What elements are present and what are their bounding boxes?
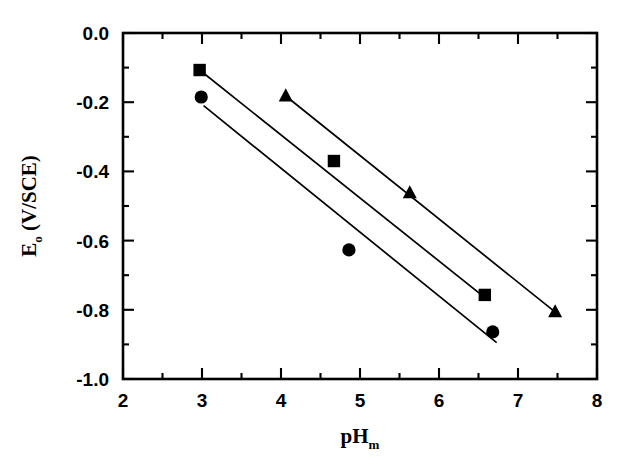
scatter-chart: 2345678 0.0-0.2-0.4-0.6-0.8-1.0 pHmEo (V…: [0, 0, 624, 464]
x-tick-label: 2: [118, 390, 129, 411]
y-tick-label: 0.0: [83, 23, 109, 44]
y-tick-label: -1.0: [76, 369, 109, 390]
x-tick-label: 5: [355, 390, 366, 411]
marker-square: [479, 289, 491, 301]
marker-circle: [342, 243, 355, 256]
x-tick-label: 6: [434, 390, 445, 411]
x-tick-label: 7: [513, 390, 524, 411]
y-tick-label: -0.8: [76, 300, 109, 321]
marker-circle: [195, 90, 208, 103]
y-tick-label: -0.2: [76, 92, 109, 113]
marker-circle: [486, 325, 499, 338]
marker-square: [328, 155, 340, 167]
y-tick-label: -0.4: [76, 161, 109, 182]
marker-square: [193, 64, 205, 76]
figure-container: 2345678 0.0-0.2-0.4-0.6-0.8-1.0 pHmEo (V…: [0, 0, 624, 464]
y-tick-label: -0.6: [76, 231, 109, 252]
x-tick-label: 8: [592, 390, 603, 411]
x-tick-label: 3: [197, 390, 208, 411]
x-tick-label: 4: [276, 390, 287, 411]
